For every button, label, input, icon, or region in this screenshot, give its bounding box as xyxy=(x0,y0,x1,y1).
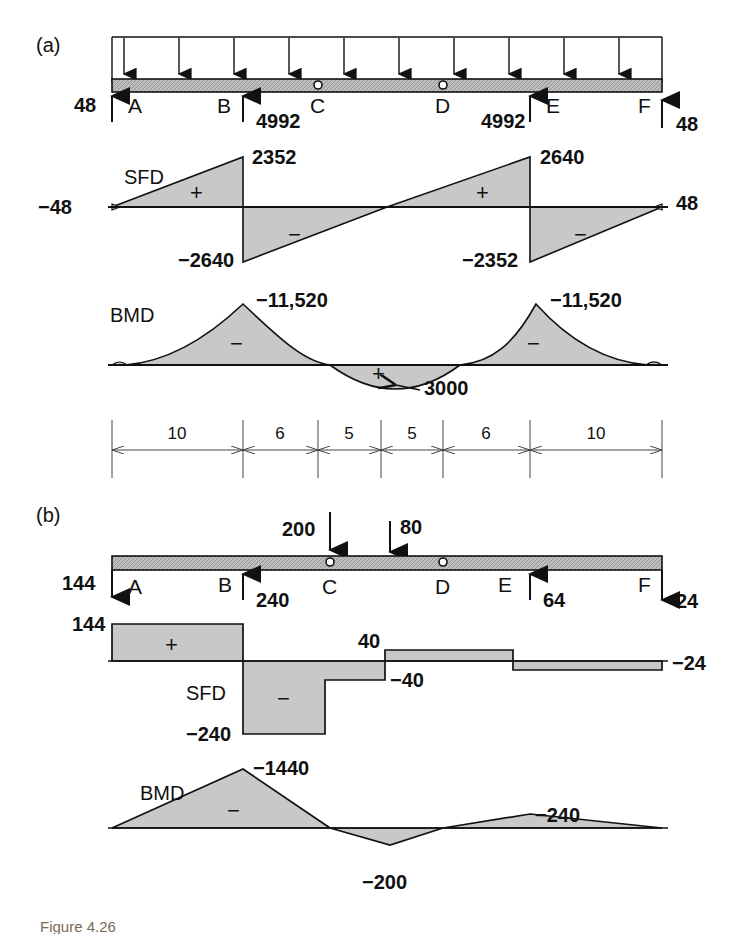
reaction-value-b: 4992 xyxy=(256,110,301,132)
sfd-b-annotation: −240 xyxy=(186,723,231,745)
sfd-b-block-neg240 xyxy=(243,661,385,734)
sfd-a-annotation: 48 xyxy=(676,192,698,214)
sfd-b-annotation: −24 xyxy=(672,652,707,674)
reactions-b xyxy=(112,570,662,600)
dimension-line-a: 10 6 5 5 6 10 xyxy=(112,420,662,478)
point-label-e: E xyxy=(546,94,560,117)
dim-label: 6 xyxy=(275,424,284,443)
sfd-b-sign: − xyxy=(277,686,290,711)
dim-label: 5 xyxy=(407,424,416,443)
dim-label: 6 xyxy=(481,424,490,443)
panel-b-label: (b) xyxy=(36,504,60,526)
reactions-a xyxy=(112,96,662,128)
sfd-b-block-neg24 xyxy=(513,661,662,670)
bmd-b-annotation: −1440 xyxy=(253,757,309,779)
beam-b xyxy=(112,556,662,570)
sfd-a-annotation: −2352 xyxy=(462,249,518,271)
sfd-a-sign: + xyxy=(190,180,203,205)
bmd-a-annotation: −11,520 xyxy=(550,289,622,311)
bmd-a-sign: − xyxy=(527,331,540,356)
point-label-a: A xyxy=(128,575,142,598)
sfd-b-sign: + xyxy=(165,632,178,657)
hinge-d-icon xyxy=(439,558,447,566)
panel-a: (a) xyxy=(36,34,698,478)
bmd-b-annotation: −200 xyxy=(362,871,407,893)
udl-load-group-a xyxy=(112,37,662,82)
bmd-b-sign: − xyxy=(227,798,240,823)
point-loads-b xyxy=(330,512,390,552)
bmd-a-hog-2 xyxy=(460,304,648,365)
reaction-value-f: 48 xyxy=(676,113,698,135)
sfd-a-label: SFD xyxy=(124,166,164,188)
figure-canvas: (a) xyxy=(0,0,737,934)
point-label-c: C xyxy=(310,94,325,117)
sfd-a: SFD −48 2352 −2640 2640 −2352 48 + − + − xyxy=(38,146,698,271)
sfd-a-sign: − xyxy=(288,222,301,247)
sfd-a-annotation: 2640 xyxy=(540,146,585,168)
bmd-a-annotation: −11,520 xyxy=(256,289,328,311)
point-label-e: E xyxy=(498,573,512,596)
sfd-a-negative-1 xyxy=(243,207,387,262)
panel-b: (b) 200 80 144 A B 240 C D E 64 F 24 xyxy=(36,504,707,893)
bmd-a-sign: − xyxy=(230,331,243,356)
sfd-b-label: SFD xyxy=(186,682,226,704)
reaction-value-a: 144 xyxy=(62,572,96,594)
point-label-b: B xyxy=(217,94,231,117)
sfd-b-block-40 xyxy=(385,650,513,661)
sfd-a-positive-2 xyxy=(387,157,530,207)
bmd-b-label: BMD xyxy=(140,782,184,804)
bmd-a: BMD −11,520 −11,520 3000 − + − xyxy=(108,289,668,399)
dim-label: 5 xyxy=(344,424,353,443)
point-label-c: C xyxy=(322,575,337,598)
sfd-b: SFD 144 −240 40 −40 −24 + − xyxy=(72,613,707,745)
point-label-f: F xyxy=(638,573,651,596)
bmd-b-annotation: −240 xyxy=(535,804,580,826)
sfd-a-annotation: −2640 xyxy=(178,249,234,271)
sfd-a-annotation: −48 xyxy=(38,196,72,218)
bmd-b-dip-200 xyxy=(330,828,443,845)
dim-label: 10 xyxy=(587,424,606,443)
hinge-d-icon xyxy=(439,81,447,89)
reaction-value-e: 64 xyxy=(543,589,566,611)
dim-label: 10 xyxy=(168,424,187,443)
reaction-value-f: 24 xyxy=(676,590,699,612)
point-label-f: F xyxy=(638,94,651,117)
point-label-d: D xyxy=(435,94,450,117)
point-label-a: A xyxy=(128,94,142,117)
point-load-value-80: 80 xyxy=(400,516,422,538)
reaction-value-e: 4992 xyxy=(481,110,526,132)
bmd-a-label: BMD xyxy=(110,304,154,326)
sfd-b-annotation: 144 xyxy=(72,613,106,635)
hinge-c-icon xyxy=(314,81,322,89)
sfd-a-sign: − xyxy=(574,222,587,247)
sfd-b-annotation: 40 xyxy=(358,630,380,652)
bmd-a-hog-1 xyxy=(125,304,330,365)
sfd-a-annotation: 2352 xyxy=(252,146,297,168)
sfd-a-negative-2 xyxy=(530,207,662,262)
figure-caption: Figure 4.26 xyxy=(40,918,116,934)
point-label-d: D xyxy=(435,575,450,598)
point-label-b: B xyxy=(218,573,232,596)
bmd-a-annotation: 3000 xyxy=(424,377,469,399)
reaction-value-b: 240 xyxy=(256,589,289,611)
point-load-value-200: 200 xyxy=(282,518,315,540)
panel-a-label: (a) xyxy=(36,34,60,56)
sfd-a-sign: + xyxy=(476,180,489,205)
sfd-b-annotation: −40 xyxy=(390,669,424,691)
reaction-value-a: 48 xyxy=(74,94,96,116)
beam-a xyxy=(112,79,662,92)
bmd-b: BMD −1440 −200 −240 − xyxy=(108,757,668,893)
hinge-c-icon xyxy=(326,558,334,566)
bmd-a-sign: + xyxy=(372,361,385,386)
